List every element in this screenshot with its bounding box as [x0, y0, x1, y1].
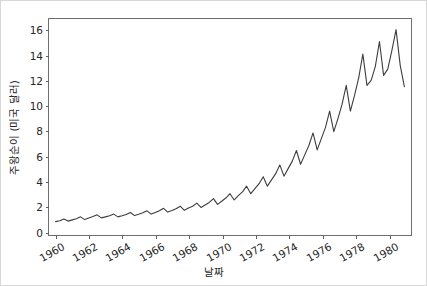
x-tick-mark [122, 235, 123, 239]
x-tick-label-1978: 1978 [338, 241, 366, 263]
y-axis-title: 주왕순이 (미국 달러) [7, 18, 20, 236]
x-tick-label-1962: 1962 [71, 241, 99, 263]
y-tick-label-8: 8 [36, 126, 43, 137]
plot-area: 0246810121416196019621964196619681970197… [48, 18, 412, 236]
series-line-주왕순이 [56, 30, 405, 222]
x-tick-mark [156, 235, 157, 239]
y-tick-label-14: 14 [30, 50, 43, 61]
y-tick-mark [46, 131, 50, 132]
y-tick-label-4: 4 [36, 177, 43, 188]
x-tick-label-1968: 1968 [171, 241, 199, 263]
y-tick-label-0: 0 [36, 227, 43, 238]
x-tick-label-1964: 1964 [104, 241, 132, 263]
x-tick-mark [89, 235, 90, 239]
y-tick-label-10: 10 [30, 101, 43, 112]
x-tick-mark [323, 235, 324, 239]
x-tick-label-1960: 1960 [38, 241, 66, 263]
series-line-svg [49, 19, 411, 235]
y-tick-label-2: 2 [36, 202, 43, 213]
x-tick-label-1976: 1976 [305, 241, 333, 263]
chart-figure: 주왕순이 (미국 달러) 024681012141619601962196419… [0, 0, 427, 286]
x-tick-mark [189, 235, 190, 239]
y-tick-mark [46, 233, 50, 234]
x-tick-mark [356, 235, 357, 239]
x-tick-label-1972: 1972 [238, 241, 266, 263]
y-tick-mark [46, 157, 50, 158]
x-tick-mark [289, 235, 290, 239]
y-tick-mark [46, 207, 50, 208]
y-tick-label-16: 16 [30, 25, 43, 36]
x-tick-label-1970: 1970 [204, 241, 232, 263]
y-tick-mark [46, 182, 50, 183]
x-tick-mark [390, 235, 391, 239]
x-tick-label-1966: 1966 [138, 241, 166, 263]
x-tick-mark [56, 235, 57, 239]
y-tick-mark [46, 56, 50, 57]
x-tick-label-1974: 1974 [271, 241, 299, 263]
x-axis-title: 날짜 [1, 267, 426, 278]
y-tick-mark [46, 106, 50, 107]
y-tick-mark [46, 81, 50, 82]
x-tick-mark [223, 235, 224, 239]
y-axis-title-text: 주왕순이 (미국 달러) [6, 80, 21, 175]
y-tick-label-6: 6 [36, 152, 43, 163]
y-tick-mark [46, 30, 50, 31]
x-tick-label-1980: 1980 [371, 241, 399, 263]
x-axis-title-text: 날짜 [204, 266, 224, 278]
y-tick-label-12: 12 [30, 76, 43, 87]
x-tick-mark [256, 235, 257, 239]
